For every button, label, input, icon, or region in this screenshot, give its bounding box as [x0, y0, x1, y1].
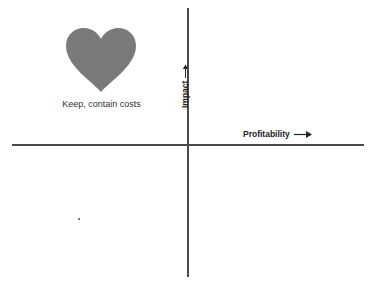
right-arrow-icon — [182, 64, 189, 78]
x-axis-label-text: Profitability — [243, 129, 290, 139]
right-arrow-icon — [294, 131, 312, 138]
y-axis-label: Impact — [179, 64, 191, 108]
x-axis-label: Profitability — [243, 129, 312, 139]
stray-dot — [78, 218, 80, 220]
quadrant-caption: Keep, contain costs — [50, 99, 153, 109]
y-axis-label-text: Impact — [180, 81, 190, 108]
vertical-axis-line — [187, 8, 189, 277]
heart-icon — [66, 28, 136, 92]
